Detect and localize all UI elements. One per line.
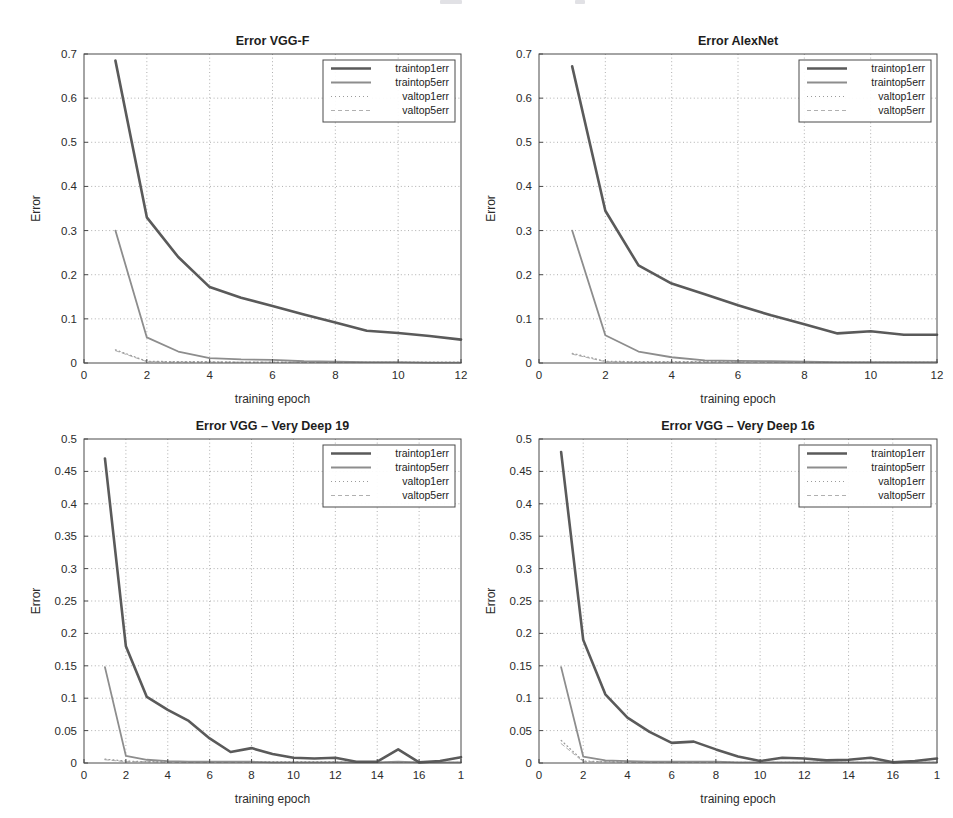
x-tick-label: 10 xyxy=(864,369,877,381)
legend-label-traintop1err: traintop1err xyxy=(871,447,925,459)
y-tick-label: 0 xyxy=(526,757,532,769)
chart-title: Error VGG – Very Deep 19 xyxy=(196,419,350,433)
y-tick-label: 0.15 xyxy=(510,660,532,672)
x-tick-label: 2 xyxy=(602,369,608,381)
y-tick-label: 0.3 xyxy=(61,563,77,575)
y-tick-label: 0.7 xyxy=(516,48,532,60)
x-tick-label: 14 xyxy=(842,769,855,781)
y-tick-label: 0.25 xyxy=(510,595,532,607)
y-tick-label: 0.4 xyxy=(61,180,78,192)
x-tick-label: 16 xyxy=(413,769,426,781)
y-tick-label: 0.1 xyxy=(516,313,532,325)
figure-grid: Error VGG-F02468101200.10.20.30.40.50.60… xyxy=(0,0,953,818)
x-axis-label: training epoch xyxy=(700,792,775,806)
y-tick-label: 0.1 xyxy=(61,313,77,325)
x-tick-label: 8 xyxy=(248,769,254,781)
x-tick-label: 4 xyxy=(668,369,675,381)
y-axis-label: Error xyxy=(29,588,43,615)
y-axis-label: Error xyxy=(29,195,43,222)
y-tick-label: 0.2 xyxy=(61,269,77,281)
y-tick-label: 0.35 xyxy=(510,530,532,542)
x-axis-label: training epoch xyxy=(700,392,775,406)
legend-label-traintop1err: traintop1err xyxy=(871,62,925,74)
x-tick-label: 0 xyxy=(536,769,542,781)
y-tick-label: 0.2 xyxy=(516,627,532,639)
legend-label-valtop5err: valtop5err xyxy=(878,104,925,116)
legend-label-traintop5err: traintop5err xyxy=(871,76,925,88)
y-tick-label: 0 xyxy=(71,757,77,769)
y-tick-label: 0.5 xyxy=(516,136,532,148)
series-line-traintop5err xyxy=(115,231,461,363)
y-tick-label: 0.7 xyxy=(61,48,77,60)
x-tick-label: 14 xyxy=(371,769,384,781)
legend-label-valtop5err: valtop5err xyxy=(878,489,925,501)
x-tick-label: 1 xyxy=(934,769,940,781)
y-tick-label: 0.05 xyxy=(510,725,532,737)
legend-label-valtop1err: valtop1err xyxy=(402,475,449,487)
chart-panel-alexnet: Error AlexNet02468101200.10.20.30.40.50.… xyxy=(477,30,953,415)
chart-title: Error VGG – Very Deep 16 xyxy=(661,419,815,433)
x-tick-label: 4 xyxy=(165,769,172,781)
y-tick-label: 0.05 xyxy=(55,725,77,737)
legend: traintop1errtraintop5errvaltop1errvaltop… xyxy=(799,445,931,507)
x-tick-label: 0 xyxy=(536,369,542,381)
y-tick-label: 0.6 xyxy=(61,92,77,104)
y-tick-label: 0.2 xyxy=(61,627,77,639)
legend: traintop1errtraintop5errvaltop1errvaltop… xyxy=(799,60,931,122)
series-line-traintop5err xyxy=(105,667,461,762)
legend-label-traintop1err: traintop1err xyxy=(395,62,449,74)
legend-label-valtop5err: valtop5err xyxy=(402,104,449,116)
x-tick-label: 2 xyxy=(580,769,586,781)
legend-label-valtop1err: valtop1err xyxy=(878,475,925,487)
x-tick-label: 2 xyxy=(144,369,150,381)
x-tick-label: 6 xyxy=(668,769,674,781)
y-tick-label: 0.4 xyxy=(516,498,533,510)
x-tick-label: 12 xyxy=(455,369,468,381)
series-line-traintop5err xyxy=(572,231,937,363)
legend-label-valtop1err: valtop1err xyxy=(878,90,925,102)
x-tick-label: 6 xyxy=(735,369,741,381)
y-tick-label: 0.4 xyxy=(61,498,78,510)
x-tick-label: 8 xyxy=(801,369,807,381)
y-tick-label: 0.5 xyxy=(61,136,77,148)
chart-title: Error VGG-F xyxy=(236,34,310,48)
x-tick-label: 10 xyxy=(754,769,767,781)
y-tick-label: 0.3 xyxy=(61,225,77,237)
x-tick-label: 8 xyxy=(713,769,719,781)
y-tick-label: 0.5 xyxy=(61,433,77,445)
x-tick-label: 12 xyxy=(329,769,342,781)
y-axis-label: Error xyxy=(484,195,498,222)
y-tick-label: 0.45 xyxy=(55,465,77,477)
y-tick-label: 0.35 xyxy=(55,530,77,542)
x-tick-label: 6 xyxy=(206,769,212,781)
legend-label-valtop5err: valtop5err xyxy=(402,489,449,501)
x-tick-label: 16 xyxy=(886,769,899,781)
y-tick-label: 0.1 xyxy=(61,692,77,704)
legend-label-traintop5err: traintop5err xyxy=(871,461,925,473)
y-tick-label: 0.5 xyxy=(516,433,532,445)
chart-panel-vgg-very-deep-19: Error VGG – Very Deep 190246810121416100… xyxy=(22,415,477,815)
y-tick-label: 0.3 xyxy=(516,225,532,237)
x-tick-label: 8 xyxy=(332,369,338,381)
y-tick-label: 0.2 xyxy=(516,269,532,281)
x-tick-label: 2 xyxy=(123,769,129,781)
y-tick-label: 0.25 xyxy=(55,595,77,607)
x-tick-label: 4 xyxy=(206,369,213,381)
chart-title: Error AlexNet xyxy=(698,34,779,48)
y-tick-label: 0.6 xyxy=(516,92,532,104)
x-tick-label: 0 xyxy=(81,369,87,381)
chart-panel-vgg-f: Error VGG-F02468101200.10.20.30.40.50.60… xyxy=(22,30,477,415)
series-line-traintop5err xyxy=(561,667,937,762)
x-tick-label: 1 xyxy=(458,769,464,781)
y-tick-label: 0.4 xyxy=(516,180,533,192)
legend-label-traintop5err: traintop5err xyxy=(395,76,449,88)
x-tick-label: 12 xyxy=(798,769,811,781)
legend-label-traintop1err: traintop1err xyxy=(395,447,449,459)
legend: traintop1errtraintop5errvaltop1errvaltop… xyxy=(323,60,455,122)
legend: traintop1errtraintop5errvaltop1errvaltop… xyxy=(323,445,455,507)
x-tick-label: 4 xyxy=(624,769,631,781)
x-tick-label: 10 xyxy=(392,369,405,381)
y-tick-label: 0.15 xyxy=(55,660,77,672)
x-tick-label: 0 xyxy=(81,769,87,781)
x-axis-label: training epoch xyxy=(235,792,310,806)
